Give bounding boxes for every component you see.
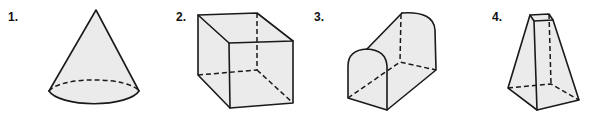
arch-prism-figure — [348, 13, 436, 110]
cone-figure — [49, 10, 139, 104]
frustum-figure — [508, 14, 579, 110]
solids-diagram — [0, 0, 592, 121]
prism-figure — [198, 13, 293, 108]
